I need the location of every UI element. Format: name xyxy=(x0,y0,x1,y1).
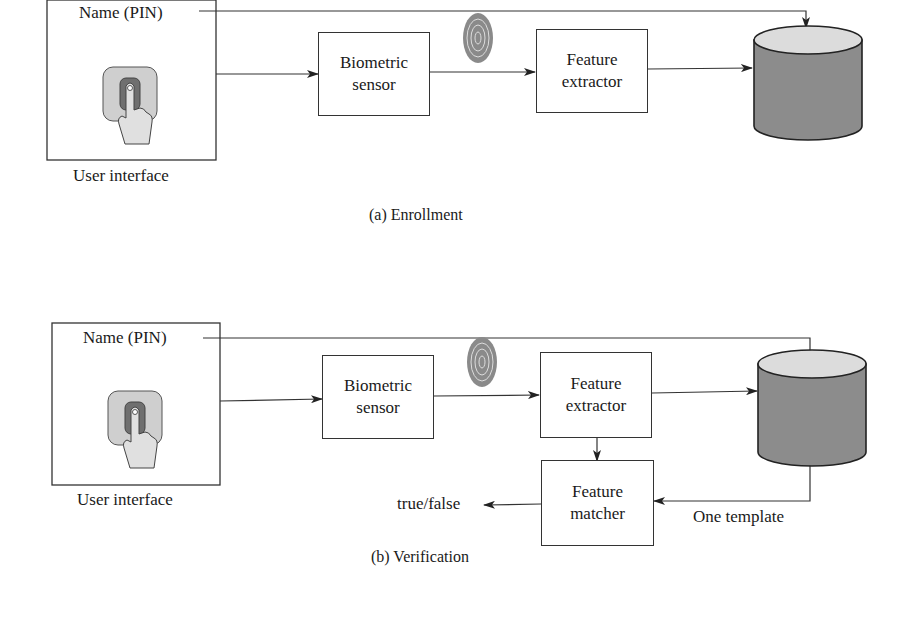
feature-matcher-box: Featurematcher xyxy=(541,460,654,546)
fingerprint-icon xyxy=(463,13,493,63)
finger-press-icon xyxy=(108,391,162,468)
verification-section xyxy=(52,323,866,505)
database-cylinder-icon xyxy=(754,26,862,140)
finger-press-icon xyxy=(103,67,157,144)
enrollment-caption: (a) Enrollment xyxy=(369,206,463,224)
name-pin-label: Name (PIN) xyxy=(83,328,167,348)
user-interface-label: User interface xyxy=(77,490,173,510)
feature-extractor-box: Featureextractor xyxy=(536,29,648,113)
verification-caption: (b) Verification xyxy=(371,548,469,566)
database-cylinder-icon xyxy=(758,350,866,466)
feature-extractor-box: Featureextractor xyxy=(540,352,652,438)
name-pin-label: Name (PIN) xyxy=(79,3,163,23)
user-interface-label: User interface xyxy=(73,166,169,186)
one-template-label: One template xyxy=(693,507,784,527)
biometric-sensor-box: Biometricsensor xyxy=(322,355,434,439)
biometric-sensor-box: Biometricsensor xyxy=(318,32,430,116)
fingerprint-icon xyxy=(467,337,497,387)
true-false-output-label: true/false xyxy=(397,494,460,514)
enrollment-section xyxy=(47,0,862,160)
